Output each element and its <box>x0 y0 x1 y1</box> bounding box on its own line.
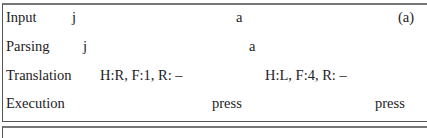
translation-cell-2: H:L, F:4, R: – <box>265 67 347 83</box>
execution-cell-2: press <box>375 95 405 111</box>
parsing-cell-2: a <box>249 38 255 54</box>
execution-cell-1: press <box>212 95 242 111</box>
row-label-input: Input <box>6 9 37 25</box>
input-cell-1: j <box>72 9 76 25</box>
panel-label: (a) <box>398 9 414 25</box>
row-label-execution: Execution <box>6 95 65 111</box>
row-label-translation: Translation <box>6 67 72 83</box>
figure-panel-b <box>2 126 427 138</box>
input-cell-2: a <box>236 9 242 25</box>
parsing-cell-1: j <box>83 38 87 54</box>
translation-cell-1: H:R, F:1, R: – <box>100 67 183 83</box>
row-label-parsing: Parsing <box>6 38 50 54</box>
